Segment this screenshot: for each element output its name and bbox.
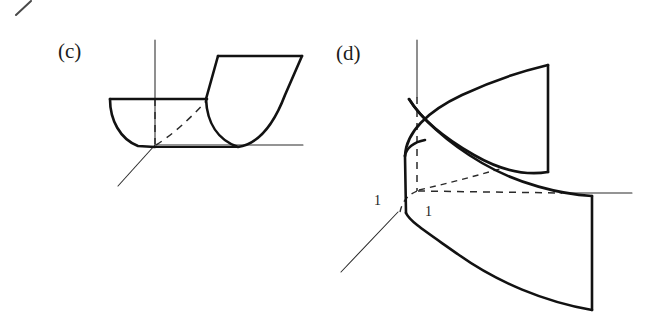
panel-d-tick-label-x-one: 1 — [425, 204, 432, 219]
figure-svg-canvas: (c) (d) — [0, 0, 655, 336]
figure-plate: (c) (d) — [0, 0, 655, 336]
panel-c: (c) — [58, 39, 303, 186]
panel-c-y-axis — [118, 145, 155, 186]
panel-d-hidden-horizontal-radius — [418, 191, 562, 193]
panel-d-inner-core-left-edge — [405, 156, 406, 213]
panel-d-y-axis — [341, 212, 398, 272]
panel-d-tick-label-y-one: 1 — [374, 193, 381, 208]
panel-d: (d) 1 1 — [336, 40, 632, 310]
panel-c-hidden-diagonal-edge — [156, 100, 207, 145]
panel-d-hidden-arc-lower — [400, 191, 417, 212]
panel-c-right-bowl-parabola — [206, 56, 302, 147]
panel-c-left-bowl-parabola — [110, 99, 155, 147]
panel-d-upper-helix-rim — [405, 65, 548, 156]
panel-d-label: (d) — [336, 41, 361, 65]
panel-d-mid-helix-crossing-edge — [409, 99, 592, 196]
stray-pen-stroke-icon — [16, 1, 31, 15]
panel-c-right-bowl-left-wall — [206, 56, 218, 99]
panel-d-lower-helix-rim — [406, 213, 592, 310]
panel-d-hidden-arc-upper — [419, 168, 503, 190]
panel-c-label: (c) — [58, 39, 81, 63]
